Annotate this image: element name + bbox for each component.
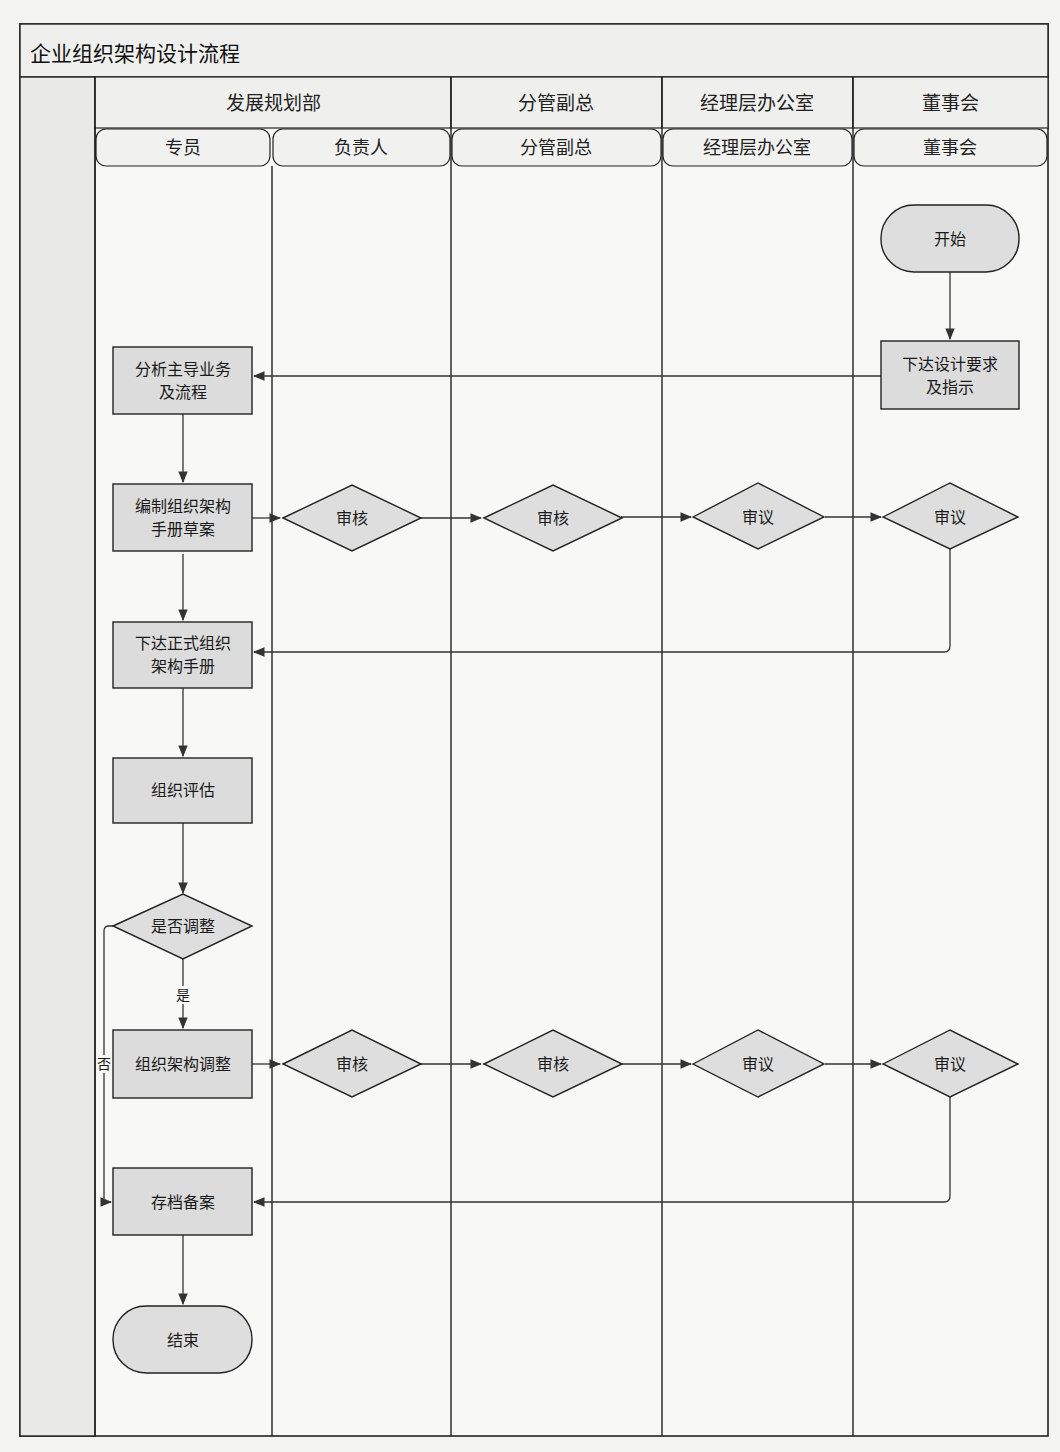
- node-label: 审核: [336, 1055, 368, 1074]
- node-label: 及指示: [926, 378, 974, 397]
- lane-title: 发展规划部: [226, 92, 321, 114]
- node-label: 开始: [934, 230, 966, 249]
- node-label: 审核: [336, 509, 368, 528]
- node-label: 审议: [934, 508, 966, 527]
- process-shape: [881, 341, 1019, 409]
- node-draft-manual[interactable]: 编制组织架构 手册草案: [113, 484, 252, 551]
- process-shape: [113, 347, 252, 414]
- diagram-title: 企业组织架构设计流程: [30, 42, 240, 66]
- node-label: 审议: [742, 1055, 774, 1074]
- node-label: 是否调整: [151, 917, 215, 936]
- node-label: 审核: [537, 509, 569, 528]
- node-label: 审议: [934, 1055, 966, 1074]
- node-label: 及流程: [159, 383, 207, 402]
- left-margin-column: [20, 77, 95, 1436]
- node-label: 结束: [167, 1331, 199, 1350]
- node-issue-formal-manual[interactable]: 下达正式组织 架构手册: [113, 622, 252, 688]
- node-label: 审核: [537, 1055, 569, 1074]
- node-label: 编制组织架构: [135, 497, 231, 516]
- node-end[interactable]: 结束: [113, 1306, 252, 1373]
- edge-label-no: 否: [97, 1056, 111, 1072]
- process-shape: [113, 622, 252, 688]
- lane-title: 经理层办公室: [700, 92, 814, 114]
- lane-title: 分管副总: [518, 92, 594, 114]
- node-label: 下达设计要求: [902, 355, 998, 374]
- node-issue-requirements[interactable]: 下达设计要求 及指示: [881, 341, 1019, 409]
- node-analyze-business[interactable]: 分析主导业务 及流程: [113, 347, 252, 414]
- node-label: 审议: [742, 508, 774, 527]
- process-shape: [113, 484, 252, 551]
- role-label: 负责人: [334, 137, 388, 158]
- edge-label-yes: 是: [176, 987, 190, 1003]
- flowchart-canvas: 企业组织架构设计流程 发展规划部 分管副总 经理层办公室 董事会 专员 负责人 …: [0, 0, 1060, 1452]
- lane-title: 董事会: [922, 92, 979, 114]
- node-label: 存档备案: [151, 1193, 215, 1212]
- node-start[interactable]: 开始: [881, 205, 1019, 272]
- role-label: 分管副总: [520, 137, 592, 158]
- node-archive[interactable]: 存档备案: [113, 1168, 252, 1235]
- role-label: 专员: [165, 137, 201, 158]
- node-label: 分析主导业务: [135, 360, 231, 379]
- node-evaluate[interactable]: 组织评估: [113, 758, 252, 823]
- role-label: 董事会: [923, 137, 977, 158]
- role-label: 经理层办公室: [703, 137, 811, 158]
- node-adjust[interactable]: 组织架构调整: [113, 1030, 252, 1098]
- node-label: 下达正式组织: [135, 634, 231, 653]
- node-label: 组织架构调整: [135, 1055, 231, 1074]
- node-label: 组织评估: [151, 781, 215, 800]
- node-label: 手册草案: [151, 520, 215, 539]
- node-label: 架构手册: [151, 657, 215, 676]
